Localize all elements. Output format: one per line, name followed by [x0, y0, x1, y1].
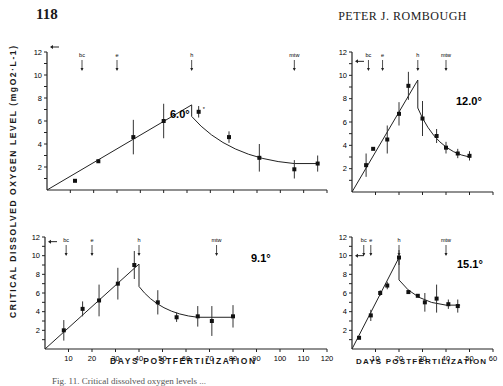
- data-point: [444, 146, 448, 150]
- data-point: [175, 315, 179, 319]
- svg-text:30: 30: [418, 354, 426, 363]
- svg-text:4: 4: [343, 307, 347, 316]
- svg-text:mtw: mtw: [289, 52, 299, 58]
- data-point: [257, 156, 261, 160]
- svg-text:4: 4: [36, 307, 40, 316]
- svg-text:50: 50: [158, 354, 166, 363]
- svg-text:10: 10: [371, 354, 379, 363]
- svg-text:10: 10: [339, 71, 347, 80]
- svg-text:30: 30: [111, 354, 119, 363]
- temperature-label: 15.1°: [457, 258, 483, 270]
- data-point: [227, 135, 231, 139]
- svg-text:8: 8: [343, 94, 347, 103]
- svg-text:e: e: [381, 52, 384, 58]
- svg-text:bc: bc: [79, 52, 85, 58]
- svg-text:90: 90: [252, 354, 260, 363]
- data-point: [371, 147, 375, 151]
- svg-text:6: 6: [343, 289, 347, 298]
- data-point: [456, 152, 460, 156]
- svg-text:8: 8: [36, 270, 40, 279]
- temperature-label: 6.0°: [170, 108, 190, 120]
- temperature-label: 12.0°: [456, 95, 482, 107]
- data-point: [406, 290, 410, 294]
- svg-text:e: e: [115, 52, 118, 58]
- svg-text:e: e: [90, 237, 93, 243]
- data-point: [116, 282, 120, 286]
- svg-text:h: h: [416, 52, 419, 58]
- svg-text:12: 12: [339, 48, 347, 57]
- svg-text:50: 50: [465, 354, 473, 363]
- svg-text:6: 6: [36, 289, 40, 298]
- svg-text:mtw: mtw: [212, 237, 222, 243]
- data-point: [73, 179, 77, 183]
- svg-text:10: 10: [32, 251, 40, 260]
- data-point: [156, 300, 160, 304]
- data-point: [385, 138, 389, 142]
- svg-text:40: 40: [135, 354, 143, 363]
- svg-text:h: h: [397, 237, 400, 243]
- svg-text:12: 12: [339, 233, 347, 242]
- data-point: [210, 319, 214, 323]
- svg-text:12: 12: [32, 233, 40, 242]
- svg-text:120: 120: [321, 354, 334, 363]
- svg-text:*: *: [203, 106, 206, 112]
- svg-text:10: 10: [339, 251, 347, 260]
- svg-text:2: 2: [343, 164, 347, 173]
- panel-4: 24681012102030405060bcehmtw15.1°: [339, 233, 498, 364]
- svg-text:6: 6: [343, 118, 347, 127]
- svg-text:10: 10: [34, 71, 42, 80]
- data-point: [435, 134, 439, 138]
- data-point: [97, 298, 101, 302]
- svg-text:60: 60: [489, 354, 497, 363]
- data-point: [416, 294, 420, 298]
- data-point: [435, 297, 439, 301]
- svg-text:100: 100: [274, 354, 287, 363]
- svg-text:80: 80: [229, 354, 237, 363]
- data-point: [421, 117, 425, 121]
- svg-text:8: 8: [343, 270, 347, 279]
- svg-text:bc: bc: [366, 52, 372, 58]
- data-point: [397, 256, 401, 260]
- svg-text:8: 8: [38, 94, 42, 103]
- svg-text:h: h: [190, 52, 193, 58]
- data-point: [292, 167, 296, 171]
- data-point: [316, 162, 320, 166]
- data-point: [385, 284, 389, 288]
- svg-text:12: 12: [34, 48, 42, 57]
- data-point: [357, 336, 361, 340]
- data-point: [364, 163, 368, 167]
- data-point: [162, 119, 166, 123]
- svg-text:bc: bc: [63, 237, 69, 243]
- svg-text:40: 40: [442, 354, 450, 363]
- data-point: [196, 314, 200, 318]
- data-point: [423, 300, 427, 304]
- svg-text:mtw: mtw: [441, 237, 451, 243]
- data-point: [132, 263, 136, 267]
- data-point: [468, 154, 472, 158]
- data-point: [369, 313, 373, 317]
- svg-text:e: e: [369, 237, 372, 243]
- svg-text:bc: bc: [361, 237, 367, 243]
- svg-text:2: 2: [38, 163, 42, 172]
- svg-text:4: 4: [38, 140, 42, 149]
- data-point: [96, 159, 100, 163]
- svg-text:4: 4: [343, 141, 347, 150]
- data-point: [378, 291, 382, 295]
- data-point: [62, 328, 66, 332]
- data-point: [406, 84, 410, 88]
- svg-text:2: 2: [343, 326, 347, 335]
- svg-text:h: h: [137, 237, 140, 243]
- data-point: [446, 302, 450, 306]
- data-point: [231, 314, 235, 318]
- panel-3: 24681012102030405060708090100110120bcehm…: [32, 233, 334, 364]
- svg-text:20: 20: [88, 354, 96, 363]
- svg-text:20: 20: [395, 354, 403, 363]
- panel-2: 24681012bcehmtw12.0°: [339, 48, 493, 196]
- svg-text:6: 6: [38, 117, 42, 126]
- svg-text:60: 60: [182, 354, 190, 363]
- svg-text:70: 70: [205, 354, 213, 363]
- data-point: [397, 112, 401, 116]
- temperature-label: 9.1°: [251, 252, 271, 264]
- svg-text:10: 10: [64, 354, 72, 363]
